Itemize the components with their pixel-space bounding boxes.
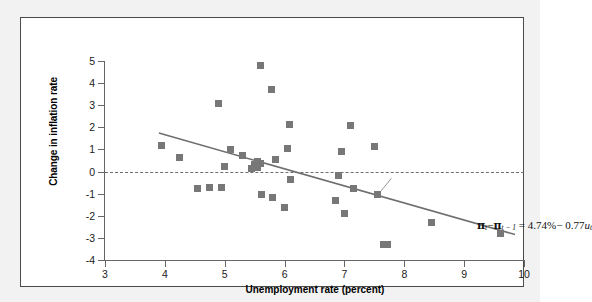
x-axis-line: [105, 260, 525, 261]
y-tick-label: -1: [67, 189, 95, 199]
y-tick-mark: [98, 260, 104, 261]
y-tick-mark: [98, 194, 104, 195]
x-tick-label: 8: [392, 268, 416, 280]
scatter-point: [218, 184, 225, 191]
y-tick-mark: [98, 83, 104, 84]
regression-equation-label: πt−πt − 1 = 4.74%− 0.77ut: [477, 219, 592, 232]
y-tick-label: 3: [67, 100, 95, 110]
scatter-point: [428, 219, 435, 226]
scatter-point: [221, 163, 228, 170]
equation-minus-2: −: [556, 219, 562, 231]
x-tick-mark: [524, 261, 525, 267]
x-tick-mark: [165, 261, 166, 267]
x-tick-label: 7: [332, 268, 356, 280]
scatter-point: [176, 154, 183, 161]
y-tick-label: -4: [67, 255, 95, 265]
scatter-point: [239, 152, 246, 159]
y-tick-label: 1: [67, 144, 95, 154]
scatter-point: [384, 241, 391, 248]
y-tick-label: -3: [67, 233, 95, 243]
scatter-point: [158, 142, 165, 149]
equation-equals: =: [519, 219, 525, 231]
y-tick-label: 5: [67, 56, 95, 66]
scatter-point: [257, 62, 264, 69]
scatter-point: [268, 86, 275, 93]
y-tick-mark: [98, 172, 104, 173]
y-tick-label: -2: [67, 211, 95, 221]
plot-area: πt−πt − 1 = 4.74%− 0.77ut: [105, 61, 524, 260]
regression-line: [105, 61, 524, 260]
scatter-point: [371, 143, 378, 150]
x-tick-mark: [464, 261, 465, 267]
x-axis-title: Unemployment rate (percent): [105, 284, 525, 295]
scatter-point: [374, 191, 381, 198]
scatter-point: [215, 100, 222, 107]
x-tick-mark: [225, 261, 226, 267]
y-tick-mark: [98, 216, 104, 217]
x-tick-label: 3: [93, 268, 117, 280]
y-tick-mark: [98, 127, 104, 128]
scatter-point: [347, 122, 354, 129]
y-tick-mark: [98, 238, 104, 239]
scatter-point: [206, 184, 213, 191]
y-tick-mark: [98, 61, 104, 62]
x-tick-label: 6: [273, 268, 297, 280]
scatter-point: [258, 191, 265, 198]
scatter-point: [272, 156, 279, 163]
pi-subscript-2: t − 1: [501, 223, 516, 232]
y-axis-title: Change in inflation rate: [48, 37, 59, 227]
x-tick-mark: [285, 261, 286, 267]
scatter-point: [287, 176, 294, 183]
y-tick-label: 2: [67, 122, 95, 132]
scatter-point: [284, 145, 291, 152]
scatter-point: [281, 204, 288, 211]
scatter-point: [257, 160, 264, 167]
scatter-point: [338, 148, 345, 155]
x-tick-label: 5: [213, 268, 237, 280]
x-tick-mark: [105, 261, 106, 267]
scatter-point: [269, 194, 276, 201]
x-tick-label: 10: [512, 268, 536, 280]
x-tick-label: 4: [153, 268, 177, 280]
y-tick-mark: [98, 149, 104, 150]
figure-frame: 543210-1-2-3-4 345678910 Change in infla…: [20, 17, 524, 287]
y-tick-mark: [98, 105, 104, 106]
y-tick-label: 4: [67, 78, 95, 88]
scatter-point: [341, 210, 348, 217]
scatter-point: [227, 146, 234, 153]
pi-symbol-1: π: [477, 219, 485, 232]
scatter-point: [332, 197, 339, 204]
scatter-point: [286, 121, 293, 128]
x-tick-mark: [344, 261, 345, 267]
equation-intercept: 4.74%: [528, 219, 556, 231]
x-tick-mark: [404, 261, 405, 267]
scatter-point: [350, 185, 357, 192]
x-tick-label: 9: [452, 268, 476, 280]
scatter-point: [335, 172, 342, 179]
y-tick-label: 0: [67, 167, 95, 177]
scatter-point: [194, 185, 201, 192]
equation-slope: 0.77: [565, 219, 584, 231]
